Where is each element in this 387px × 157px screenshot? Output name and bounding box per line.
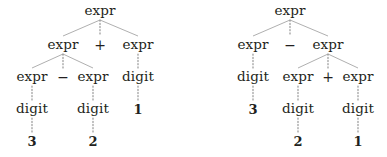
tree-node-nonterminal-l8: digit <box>16 102 48 116</box>
tree-node-nonterminal-l9: digit <box>77 102 109 116</box>
tree-node-terminal-r11: 2 <box>293 135 302 148</box>
tree-node-nonterminal-r7: expr <box>342 70 373 84</box>
tree-node-nonterminal-l6: expr <box>77 70 108 84</box>
tree-node-nonterminal-l0: expr <box>84 4 115 18</box>
tree-node-nonterminal-r10: digit <box>342 102 374 116</box>
tree-node-nonterminal-r5: expr <box>282 70 313 84</box>
tree-node-nonterminal-l4: expr <box>16 70 47 84</box>
tree-node-nonterminal-r4: digit <box>237 70 269 84</box>
tree-node-terminal-l12: 2 <box>88 135 97 148</box>
tree-node-nonterminal-r1: expr <box>237 38 268 52</box>
tree-node-terminal-r8: 3 <box>248 103 257 116</box>
tree-node-nonterminal-r9: digit <box>282 102 314 116</box>
tree-node-nonterminal-l3: expr <box>122 38 153 52</box>
tree-node-terminal-l10: 1 <box>133 103 142 116</box>
tree-node-nonterminal-l1: expr <box>47 38 78 52</box>
tree-node-terminal-l11: 3 <box>27 135 36 148</box>
tree-node-nonterminal-l7: digit <box>122 70 154 84</box>
tree-node-operator-r2: − <box>284 38 296 52</box>
tree-node-terminal-r12: 1 <box>353 135 362 148</box>
tree-node-nonterminal-r3: expr <box>312 38 343 52</box>
tree-node-nonterminal-r0: expr <box>274 4 305 18</box>
parse-tree-figure: exprexpr+exprexpr−exprdigitdigitdigit132… <box>0 0 387 157</box>
tree-node-operator-l5: − <box>57 70 69 84</box>
tree-nodes-layer: exprexpr+exprexpr−exprdigitdigitdigit132… <box>0 0 387 157</box>
tree-node-operator-r6: + <box>322 70 334 84</box>
tree-node-operator-l2: + <box>94 38 106 52</box>
